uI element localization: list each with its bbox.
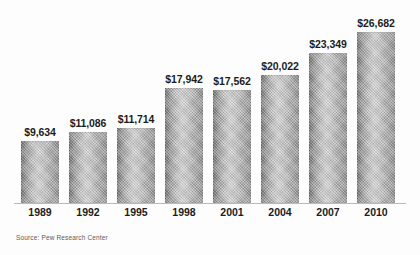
bar-value-label: $17,942 — [165, 73, 202, 85]
bar-body[interactable] — [69, 132, 107, 203]
category-tick-label: 1995 — [124, 206, 147, 218]
bar-group[interactable]: $11,714 — [117, 128, 155, 203]
bar-body[interactable] — [21, 141, 59, 203]
bar-value-label: $11,086 — [70, 117, 107, 129]
category-tick-label: 2007 — [316, 206, 339, 218]
bar-group[interactable]: $26,682 — [357, 32, 395, 203]
category-axis: 19891992199519982001200420072010 — [0, 206, 420, 224]
bar-body[interactable] — [213, 90, 251, 203]
bar-value-label: $23,349 — [309, 38, 346, 50]
bar-body[interactable] — [357, 32, 395, 203]
category-tick-label: 1992 — [76, 206, 99, 218]
source-note: Source: Pew Research Center — [16, 234, 108, 241]
chart-plot-area: $9,634$11,086$11,714$17,942$17,562$20,02… — [0, 0, 420, 204]
category-tick-label: 2001 — [220, 206, 243, 218]
bar-value-label: $11,714 — [118, 113, 155, 125]
bar-value-label: $26,682 — [357, 17, 394, 29]
bar-group[interactable]: $17,562 — [213, 90, 251, 203]
bar-chart-figure: $9,634$11,086$11,714$17,942$17,562$20,02… — [0, 0, 420, 255]
bar-group[interactable]: $23,349 — [309, 53, 347, 203]
category-tick-label: 1998 — [172, 206, 195, 218]
bar-value-label: $17,562 — [213, 75, 250, 87]
bar-group[interactable]: $17,942 — [165, 88, 203, 203]
bar-body[interactable] — [165, 88, 203, 203]
bar-body[interactable] — [117, 128, 155, 203]
bar-group[interactable]: $9,634 — [21, 141, 59, 203]
bar-body[interactable] — [261, 75, 299, 203]
bar-body[interactable] — [309, 53, 347, 203]
bar-group[interactable]: $20,022 — [261, 75, 299, 203]
bar-value-label: $9,634 — [24, 126, 56, 138]
category-tick-label: 1989 — [28, 206, 51, 218]
bar-value-label: $20,022 — [261, 60, 298, 72]
category-axis-line — [14, 203, 406, 204]
category-tick-label: 2004 — [268, 206, 291, 218]
category-tick-label: 2010 — [364, 206, 387, 218]
bar-group[interactable]: $11,086 — [69, 132, 107, 203]
